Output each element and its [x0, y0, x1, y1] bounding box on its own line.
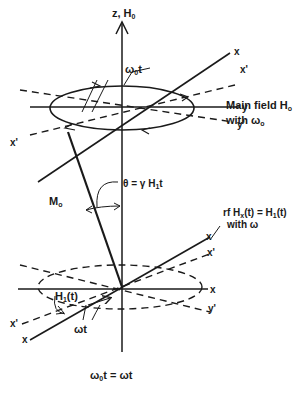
bottom-frame — [18, 237, 212, 340]
theta-label: θ = γ H1t — [123, 178, 163, 190]
bottom-caption: ω0t = ωt — [90, 369, 133, 382]
z-axis-label: z, H0 — [112, 7, 136, 20]
top-y-prime-axis — [20, 90, 233, 122]
main-field-caption-1: Main field Ho — [226, 99, 292, 112]
top-x-label: x — [234, 46, 240, 57]
top-x-prime-label: x' — [240, 64, 248, 75]
h1-label: H1(t) — [55, 290, 78, 303]
bottom-y-prime-label: y' — [208, 303, 216, 314]
top-x-prime-axis — [30, 85, 235, 135]
magnetization-label: Mo — [49, 195, 62, 208]
rf-caption-1: rf Hx(t) = H1(t) — [223, 207, 287, 219]
h1-vector — [88, 298, 110, 305]
bottom-x-prime-label: x' — [207, 247, 215, 258]
bottom-x-label: x — [206, 231, 212, 242]
bottom-x-left-label: x — [22, 334, 28, 345]
top-x-prime-left-label: x' — [10, 137, 18, 148]
diagram-canvas: z, H0 x x' y y' x' ω0t Main field Ho wit… — [0, 0, 297, 393]
bottom-x-axis-label: x — [210, 284, 216, 295]
rf-caption-2: with ω — [226, 219, 259, 230]
top-angle-label: ω0t — [125, 63, 142, 76]
bottom-x-prime-left-label: x' — [10, 318, 18, 329]
main-field-caption-2: with ωo — [225, 114, 265, 127]
bottom-angle-label: ωt — [74, 323, 87, 335]
